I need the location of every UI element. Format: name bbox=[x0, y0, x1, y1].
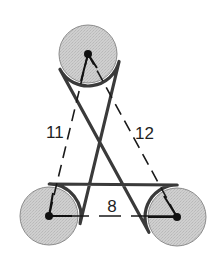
distance-label-bottom: 8 bbox=[107, 197, 116, 216]
hub-top bbox=[84, 50, 92, 58]
distance-label-top-left: 11 bbox=[46, 123, 64, 142]
distance-label-top-right: 12 bbox=[135, 124, 154, 143]
belt-pulley-diagram: 11 12 8 bbox=[0, 0, 221, 260]
diagram-canvas: 11 12 8 bbox=[0, 0, 221, 260]
hub-right bbox=[173, 213, 181, 221]
hub-left bbox=[45, 212, 53, 220]
